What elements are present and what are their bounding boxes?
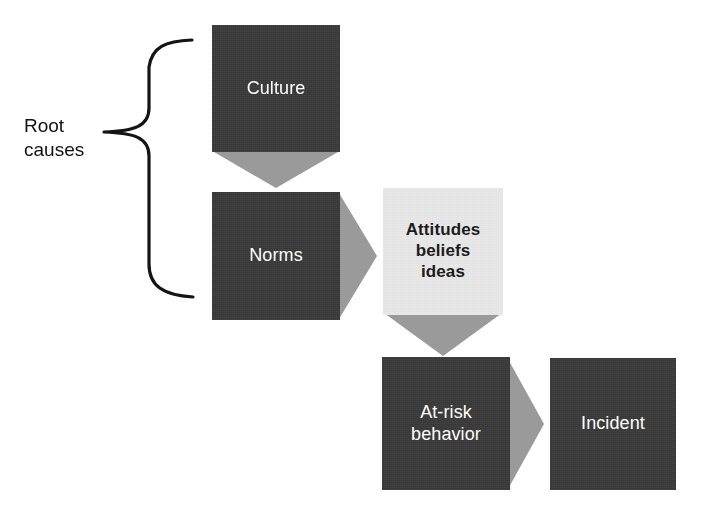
node-attitudes-beliefs-ideas[interactable]: Attitudes beliefs ideas [383, 188, 503, 315]
root-causes-brace [95, 36, 200, 316]
node-attitudes-beliefs-ideas-label: Attitudes beliefs ideas [406, 220, 481, 282]
diagram-canvas: Root causes Culture Norms Attitudes beli… [0, 0, 702, 513]
node-incident-label: Incident [581, 413, 645, 435]
arrow-culture-to-norms [214, 152, 338, 188]
node-at-risk-behavior[interactable]: At-risk behavior [382, 357, 510, 490]
node-norms[interactable]: Norms [212, 192, 340, 320]
root-causes-label: Root causes [24, 114, 84, 162]
node-culture-label: Culture [247, 78, 306, 100]
brace-path [104, 40, 193, 297]
node-norms-label: Norms [249, 245, 303, 267]
node-culture[interactable]: Culture [212, 25, 340, 152]
arrow-at-risk-behavior-to-incident [508, 359, 544, 489]
node-incident[interactable]: Incident [550, 358, 676, 490]
arrow-norms-to-attitudes [339, 193, 377, 319]
node-at-risk-behavior-label: At-risk behavior [411, 402, 481, 446]
arrow-attitudes-to-at-risk-behavior [384, 313, 502, 356]
